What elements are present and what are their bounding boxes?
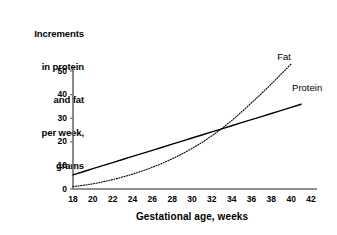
axes [70,68,317,189]
y-tick-label: 50 [47,66,67,76]
x-tick-label: 32 [202,194,222,204]
x-axis-title: Gestational age, weeks [73,211,311,222]
x-tick-label: 40 [281,194,301,204]
chart-figure: Increments in protein and fat per week, … [0,0,337,235]
x-tick-label: 26 [142,194,162,204]
y-tick-label: 10 [47,160,67,170]
y-tick-label: 30 [47,113,67,123]
x-tick-label: 30 [182,194,202,204]
x-tick-label: 20 [83,194,103,204]
x-tick-label: 28 [162,194,182,204]
x-tick-label: 24 [123,194,143,204]
x-tick-label: 42 [301,194,321,204]
x-tick-label: 18 [63,194,83,204]
series-line-protein [73,104,301,175]
data-series [73,64,301,187]
x-tick-label: 34 [222,194,242,204]
y-tick-label: 0 [47,184,67,194]
y-tick-label: 40 [47,89,67,99]
series-label-protein: Protein [292,82,322,93]
x-tick-label: 36 [242,194,262,204]
x-tick-label: 38 [261,194,281,204]
y-tick-label: 20 [47,136,67,146]
x-tick-label: 22 [103,194,123,204]
series-label-fat: Fat [277,51,291,62]
series-line-fat [73,64,291,187]
